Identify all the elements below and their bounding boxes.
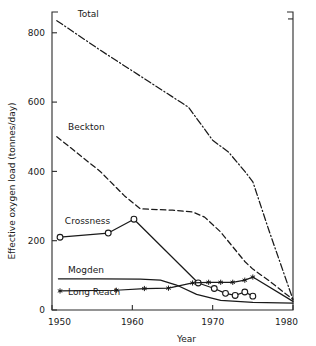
x-tick-label: 1960 bbox=[121, 317, 144, 327]
y-tick-label: 0 bbox=[39, 305, 45, 315]
data-point-marker bbox=[250, 293, 256, 299]
x-axis-title: Year bbox=[176, 334, 196, 344]
series-total bbox=[57, 21, 293, 300]
data-point-marker bbox=[223, 290, 229, 296]
series-label-total: Total bbox=[77, 9, 99, 19]
data-point-marker bbox=[211, 286, 217, 292]
series-line bbox=[60, 219, 253, 296]
series-label-mogden: Mogden bbox=[68, 265, 104, 275]
data-point-marker bbox=[105, 230, 111, 236]
data-point-marker bbox=[57, 234, 63, 240]
series-label-beckton: Beckton bbox=[68, 122, 105, 132]
y-tick-label: 400 bbox=[28, 167, 45, 177]
x-tick-label: 1970 bbox=[201, 317, 224, 327]
series-label-long-reach: Long Reach bbox=[68, 287, 120, 297]
data-point-marker bbox=[131, 216, 137, 222]
label-layer: TotalBecktonCrossnessMogdenLong Reach bbox=[65, 9, 120, 297]
data-point-marker bbox=[232, 293, 238, 299]
y-tick-label: 600 bbox=[28, 97, 45, 107]
x-tick-label: 1980 bbox=[275, 317, 298, 327]
series-label-crossness: Crossness bbox=[65, 216, 111, 226]
series-line bbox=[57, 21, 293, 300]
x-tick-label: 1950 bbox=[48, 317, 71, 327]
chart-figure: 02004006008001950196019701980YearEffecti… bbox=[0, 0, 316, 346]
data-point-marker bbox=[242, 289, 248, 295]
y-tick-label: 800 bbox=[28, 28, 45, 38]
y-axis-title: Effective oxygen load (tonnes/day) bbox=[7, 102, 17, 259]
y-tick-label: 200 bbox=[28, 236, 45, 246]
series-layer bbox=[57, 21, 293, 303]
chart-canvas: 02004006008001950196019701980YearEffecti… bbox=[0, 0, 316, 346]
